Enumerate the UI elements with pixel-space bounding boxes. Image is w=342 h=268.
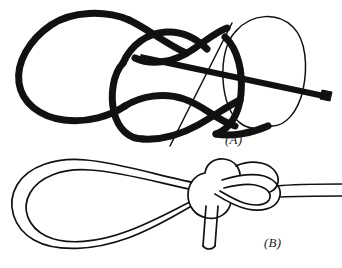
standing-part-lower xyxy=(281,196,342,197)
tail-cut-end xyxy=(203,246,215,249)
cut-rope-end xyxy=(320,90,332,101)
panel-a-label: (A) xyxy=(225,132,242,147)
knot-figure: (A) (B) xyxy=(0,0,342,268)
figure-canvas: (A) (B) xyxy=(0,0,342,268)
panel-b-label: (B) xyxy=(264,235,281,250)
